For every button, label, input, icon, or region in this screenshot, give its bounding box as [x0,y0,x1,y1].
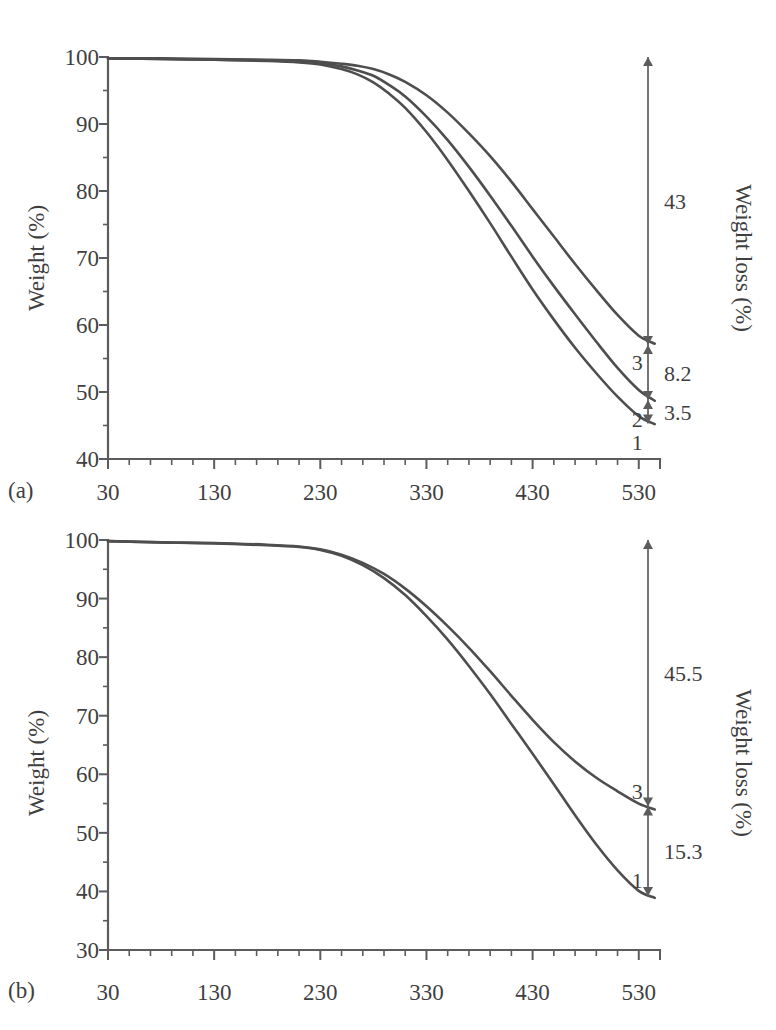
right-axis-title: Weight loss (%) [731,184,756,332]
y-tick-label: 60 [76,762,99,787]
x-tick-label: 530 [622,980,657,1005]
data-curves [108,541,655,898]
curve-1 [108,541,655,898]
weight-loss-annotations: 438.23.5 [643,57,692,425]
y-tick-label: 70 [76,704,99,729]
x-axis-tick-labels: 30130230330430530 [97,980,657,1005]
x-axis-ticks [108,950,660,960]
curve-label-1: 1 [632,430,643,455]
x-axis-ticks [108,459,660,469]
y-tick-label: 80 [76,179,99,204]
y-tick-label: 100 [65,45,100,70]
panel-letter-b: (b) [8,978,35,1003]
curve-1 [108,58,655,424]
y-tick-label: 90 [76,112,99,137]
x-tick-label: 330 [409,480,444,505]
annot-value-0: 45.5 [664,661,703,686]
annot-value-2: 3.5 [664,400,692,425]
curve-3 [108,541,655,809]
x-tick-label: 30 [97,980,120,1005]
y-tick-label: 80 [76,645,99,670]
curve-label-2: 2 [632,407,643,432]
y-tick-label: 70 [76,246,99,271]
panel-letter-a: (a) [8,478,34,503]
y-axis-title: Weight (%) [24,710,49,816]
y-tick-label: 40 [76,879,99,904]
y-axis-title: Weight (%) [24,205,49,311]
panel-b: 30405060708090100 30130230330430530 13 4… [0,515,776,1030]
y-tick-label: 60 [76,313,99,338]
y-tick-label: 100 [65,528,100,553]
annot-value-1: 8.2 [664,361,692,386]
y-axis-ticks [99,540,108,950]
annot-value-1: 15.3 [664,839,703,864]
annot-arrowhead-top [643,400,653,409]
x-tick-label: 130 [197,980,232,1005]
annot-value-0: 43 [664,189,686,214]
panel-a-plot: 405060708090100 30130230330430530 123 43… [0,0,776,515]
x-tick-label: 430 [515,980,550,1005]
weight-loss-annotations: 45.515.3 [643,540,703,896]
x-tick-label: 130 [197,480,232,505]
y-axis-ticks [99,57,108,459]
curve-label-1: 1 [632,868,643,893]
panel-b-plot: 30405060708090100 30130230330430530 13 4… [0,515,776,1030]
panel-a: 405060708090100 30130230330430530 123 43… [0,0,776,515]
y-tick-label: 30 [76,938,99,963]
tga-figure: 405060708090100 30130230330430530 123 43… [0,0,776,1030]
right-axis-title: Weight loss (%) [731,689,756,837]
x-tick-label: 30 [97,480,120,505]
annot-arrowhead-top [643,57,653,66]
curve-label-3: 3 [632,779,643,804]
curve-labels: 13 [632,779,643,892]
x-tick-label: 330 [409,980,444,1005]
curve-label-3: 3 [632,350,643,375]
x-tick-label: 430 [515,480,550,505]
curve-2 [108,58,655,400]
curve-labels: 123 [632,350,643,455]
x-tick-label: 230 [303,480,338,505]
x-tick-label: 230 [303,980,338,1005]
y-axis-tick-labels: 405060708090100 [65,45,100,472]
x-axis-tick-labels: 30130230330430530 [97,480,657,505]
y-tick-label: 40 [76,447,99,472]
y-tick-label: 50 [76,821,99,846]
curve-3 [108,58,655,343]
panel-b-axes [99,540,660,960]
x-tick-label: 530 [622,480,657,505]
y-tick-label: 90 [76,587,99,612]
annot-arrowhead-top [643,540,653,549]
y-tick-label: 50 [76,380,99,405]
y-axis-tick-labels: 30405060708090100 [65,528,100,963]
data-curves [108,58,655,424]
annot-arrowhead-top [643,345,653,354]
